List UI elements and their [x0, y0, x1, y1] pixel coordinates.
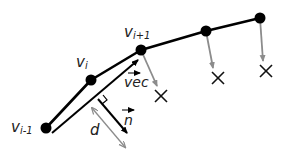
- x-marker-3: [260, 65, 272, 77]
- label-v-i-minus-1: vi-1: [11, 118, 33, 136]
- vertex-v-i-minus-1: [41, 123, 52, 134]
- vertex-v-i: [86, 75, 97, 86]
- diagram-svg: vi-1 vi vi+1 vec n d: [0, 0, 281, 152]
- label-v-i: vi: [76, 53, 88, 71]
- svg-text:vec: vec: [124, 74, 149, 90]
- vertex-v-i-plus-1: [136, 45, 147, 56]
- vertex-5: [255, 13, 266, 24]
- vertex-4: [201, 26, 212, 37]
- offset-curve-diagram: vi-1 vi vi+1 vec n d: [0, 0, 281, 152]
- svg-text:n: n: [124, 112, 133, 128]
- label-d: d: [90, 121, 100, 139]
- projection-arrow-2: [206, 31, 213, 68]
- label-v-i-plus-1: vi+1: [124, 23, 150, 41]
- x-marker-2: [212, 72, 224, 84]
- label-vec: vec: [124, 73, 149, 90]
- x-marker-1: [155, 90, 167, 102]
- right-angle-marker: [102, 95, 107, 104]
- projection-arrow-3: [260, 18, 263, 61]
- label-n: n: [122, 110, 134, 128]
